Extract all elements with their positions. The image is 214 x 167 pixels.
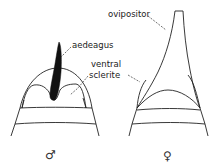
female-band-lower (132, 123, 205, 125)
male-band-lower (15, 123, 96, 125)
female-side-left (129, 108, 137, 136)
diagram-canvas: aedeagus ventral sclerite ovipositor ♂ ♀ (0, 0, 214, 167)
label-ovipositor-text: ovipositor (108, 9, 151, 19)
male-band-upper (20, 107, 92, 108)
female-abdomen (129, 11, 208, 136)
female-band-upper (137, 109, 200, 111)
label-ventral-sclerite: ventral sclerite (70, 59, 140, 95)
label-ovipositor: ovipositor (108, 9, 166, 30)
leader-sclerite-female (128, 75, 140, 82)
leader-aedeagus (61, 47, 71, 57)
label-aedeagus-text: aedeagus (72, 40, 114, 50)
male-side-right (92, 108, 99, 136)
female-symbol: ♀ (163, 149, 172, 163)
leader-ovipositor (148, 16, 166, 30)
label-ventral-text: ventral (91, 59, 121, 69)
male-side-left (11, 108, 20, 136)
female-side-right (200, 108, 208, 136)
ovipositor-shape (137, 11, 200, 108)
male-symbol: ♂ (45, 148, 56, 162)
label-sclerite-text: sclerite (89, 70, 120, 80)
male-abdomen (11, 42, 99, 136)
label-aedeagus: aedeagus (61, 40, 114, 57)
